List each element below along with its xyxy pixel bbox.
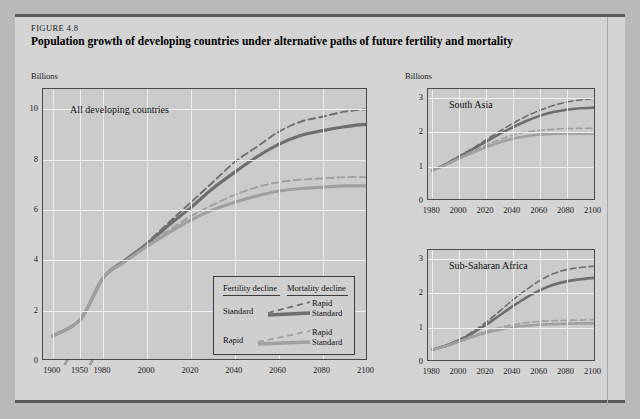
gridline-vertical [80,89,81,359]
gridline-horizontal [43,260,366,261]
gridline-horizontal [43,210,366,211]
y-axis-tick-label: 1 [419,161,423,171]
gridline-horizontal [428,132,594,133]
x-axis-tick-label: 2100 [584,366,601,376]
figure-right-rule [607,17,608,406]
panel-title-south-asia: South Asia [449,99,493,110]
chart-sub-saharan-africa: Sub-Saharan Africa 012319802000202020402… [427,249,595,361]
figure-number: FIGURE 4.8 [31,23,78,33]
left-axis-unit-label: Billions [31,71,58,81]
x-axis-tick-label: 2060 [269,365,286,375]
x-axis-tick-label: 1980 [423,366,440,376]
gridline-horizontal [428,167,594,168]
gridline-horizontal [43,160,366,161]
gridline-vertical [567,250,568,360]
gridline-vertical [53,89,54,359]
legend-row-0-mortality-standard: Standard [312,308,342,318]
x-axis-tick-label: 2020 [477,366,494,376]
figure-title: Population growth of developing countrie… [31,35,513,47]
gridline-vertical [147,89,148,359]
gridline-vertical [540,250,541,360]
x-axis-tick-label: 2020 [181,365,198,375]
gridline-horizontal [428,328,594,329]
x-axis-tick-label: 2040 [503,205,520,215]
x-axis-tick-label: 2080 [313,365,330,375]
right-axis-unit-label: Billions [405,71,432,81]
gridline-horizontal [428,293,594,294]
y-axis-tick-label: 2 [34,305,38,315]
x-axis-tick-label: 2100 [357,365,374,375]
legend-swatch-row-1 [256,325,312,347]
gridline-vertical [567,89,568,199]
y-axis-tick-label: 2 [419,126,423,136]
x-axis-tick-label: 2000 [450,366,467,376]
x-axis-tick-label: 2100 [584,205,601,215]
legend-row-1-mortality-standard: Standard [312,337,342,347]
legend-header-mortality: Mortality decline [287,283,346,293]
x-axis-tick-label: 2040 [503,366,520,376]
x-axis-tick-label: 1950 [71,365,88,375]
legend-row-0-mortality-rapid: Rapid [312,298,332,308]
x-axis-tick-label: 1980 [423,205,440,215]
gridline-vertical [432,89,433,199]
legend-row-1-fertility: Rapid [223,335,243,345]
gridline-vertical [594,250,595,360]
chart-legend: Fertility decline Mortality decline Stan… [213,276,355,355]
gridline-vertical [540,89,541,199]
x-axis-tick-label: 2060 [530,366,547,376]
axis-break-mark: // [64,357,67,367]
chart-south-asia: South Asia 01231980200020202040206020802… [427,88,595,200]
y-axis-tick-label: 0 [34,355,38,365]
x-axis-tick-label: 2000 [138,365,155,375]
legend-row-0-fertility: Standard [223,306,253,316]
legend-row-1-mortality-rapid: Rapid [312,327,332,337]
gridline-vertical [432,250,433,360]
y-axis-tick-label: 1 [419,322,423,332]
x-axis-tick-label: 2080 [557,366,574,376]
gridline-vertical [103,89,104,359]
figure-container: FIGURE 4.8 Population growth of developi… [15,14,625,403]
legend-header-fertility: Fertility decline [223,283,277,293]
y-axis-tick-label: 10 [30,103,39,113]
x-axis-tick-label: 1900 [43,365,60,375]
y-axis-tick-label: 3 [419,253,423,263]
x-axis-tick-label: 2040 [225,365,242,375]
x-axis-tick-label: 2060 [530,205,547,215]
y-axis-tick-label: 3 [419,92,423,102]
gridline-vertical [513,89,514,199]
x-axis-tick-label: 2000 [450,205,467,215]
gridline-vertical [191,89,192,359]
x-axis-tick-label: 2020 [477,205,494,215]
x-axis-tick-label: 2080 [557,205,574,215]
panel-title-sub-saharan-africa: Sub-Saharan Africa [449,260,528,271]
gridline-vertical [366,89,367,359]
axis-break-mark: // [89,357,92,367]
x-axis-tick-label: 1980 [94,365,111,375]
y-axis-tick-label: 0 [419,195,423,205]
gridline-vertical [594,89,595,199]
y-axis-tick-label: 6 [34,204,38,214]
y-axis-tick-label: 2 [419,287,423,297]
y-axis-tick-label: 4 [34,254,38,264]
legend-swatch-row-0 [266,296,312,318]
y-axis-tick-label: 0 [419,356,423,366]
panel-title-all-developing-countries: All developing countries [70,104,169,115]
y-axis-tick-label: 8 [34,154,38,164]
